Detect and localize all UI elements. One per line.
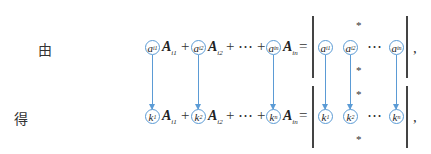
equals-sign: = xyxy=(299,38,307,55)
equals-sign: = xyxy=(299,107,307,124)
det-left-bar xyxy=(312,16,314,78)
arrow-down-icon xyxy=(273,55,274,109)
plus-sign: + xyxy=(226,38,234,55)
cofactor-subscript: i1 xyxy=(171,118,176,126)
plus-sign: + xyxy=(257,107,265,124)
star-placeholder-bottom: * xyxy=(356,133,362,145)
coef-circle-a-i2: ai2 xyxy=(191,40,206,55)
cofactor-symbol: A xyxy=(162,108,171,123)
det-ellipsis: ⋯ xyxy=(367,106,382,124)
entry-subscript: i1 xyxy=(326,45,331,51)
coef-subscript: in xyxy=(274,45,279,51)
plus-sign: + xyxy=(226,107,234,124)
cofactor-A-i2: Ai2 xyxy=(208,39,223,57)
entry-subscript: 2 xyxy=(351,114,354,120)
det-entry-kn: kn xyxy=(389,109,404,124)
cofactor-A-i1: Ai1 xyxy=(162,108,177,126)
star-placeholder-bottom: * xyxy=(356,64,362,76)
cofactor-symbol: A xyxy=(283,108,292,123)
cofactor-A-i1: Ai1 xyxy=(162,39,177,57)
coef-circle-k1: k1 xyxy=(145,109,160,124)
plus-sign: + xyxy=(181,38,189,55)
det-entry-k2: k2 xyxy=(343,109,358,124)
det-left-bar xyxy=(312,86,314,148)
det-entry-k1: k1 xyxy=(318,109,333,124)
cofactor-A-i2: Ai2 xyxy=(208,108,223,126)
arrow-down-icon xyxy=(325,55,326,109)
det-right-bar xyxy=(406,16,408,78)
cofactor-symbol: A xyxy=(162,39,171,54)
coef-subscript: 1 xyxy=(153,114,156,120)
cofactor-symbol: A xyxy=(208,108,217,123)
cofactor-symbol: A xyxy=(208,39,217,54)
cofactor-A-in: Ain xyxy=(283,39,298,57)
cofactor-symbol: A xyxy=(283,39,292,54)
cofactor-subscript: i2 xyxy=(217,118,222,126)
ellipsis: ⋯ xyxy=(238,37,253,55)
plus-sign: + xyxy=(257,38,265,55)
coef-subscript: i1 xyxy=(153,45,158,51)
det-entry-a-in: ain xyxy=(389,40,404,55)
label-obtain: 得 xyxy=(14,108,28,128)
det-ellipsis: ⋯ xyxy=(367,37,382,55)
arrow-down-icon xyxy=(152,55,153,109)
arrow-down-icon xyxy=(198,55,199,109)
trailing-comma: , xyxy=(413,109,417,126)
det-right-bar xyxy=(406,86,408,148)
trailing-comma: , xyxy=(413,40,417,57)
entry-subscript: 1 xyxy=(326,114,329,120)
star-placeholder-top: * xyxy=(356,19,362,31)
cofactor-A-in: Ain xyxy=(283,108,298,126)
det-entry-a-i2: ai2 xyxy=(343,40,358,55)
cofactor-subscript: i1 xyxy=(171,49,176,57)
plus-sign: + xyxy=(181,107,189,124)
coef-subscript: i2 xyxy=(199,45,204,51)
coef-circle-a-i1: ai1 xyxy=(145,40,160,55)
coef-subscript: 2 xyxy=(199,114,202,120)
coef-subscript: n xyxy=(274,114,277,120)
label-given: 由 xyxy=(38,39,52,59)
entry-subscript: in xyxy=(397,45,402,51)
entry-subscript: i2 xyxy=(351,45,356,51)
coef-circle-kn: kn xyxy=(266,109,281,124)
det-entry-a-i1: ai1 xyxy=(318,40,333,55)
ellipsis: ⋯ xyxy=(238,106,253,124)
arrow-down-icon xyxy=(396,55,397,109)
coef-circle-a-in: ain xyxy=(266,40,281,55)
entry-subscript: n xyxy=(397,114,400,120)
star-placeholder-top: * xyxy=(356,88,362,100)
coef-circle-k2: k2 xyxy=(191,109,206,124)
cofactor-subscript: i2 xyxy=(217,49,222,57)
cofactor-subscript: in xyxy=(292,49,297,57)
cofactor-subscript: in xyxy=(292,118,297,126)
arrow-down-icon xyxy=(350,55,351,109)
